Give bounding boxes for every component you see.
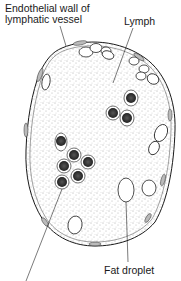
label-lymph: Lymph (124, 16, 155, 27)
label-endothelial-wall-line2: lymphatic vessel (5, 14, 90, 25)
lymphatic-vessel-diagram (0, 0, 181, 281)
label-fat-droplet: Fat droplet (104, 265, 154, 276)
leader-line-wall (60, 26, 66, 46)
label-endothelial-wall: Endothelial wall of lymphatic vessel (5, 3, 90, 25)
